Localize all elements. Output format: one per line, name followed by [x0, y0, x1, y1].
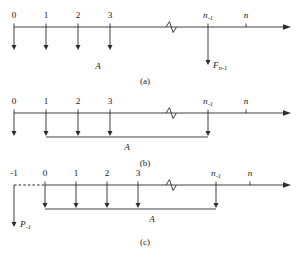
panel-c-flow-arrow-1 — [74, 185, 79, 208]
panel-a-label-n-minus-1: n-1 — [203, 10, 213, 21]
panel-a-flow-arrow-2 — [76, 27, 81, 50]
panel-c-amount-label: A — [148, 214, 155, 224]
panel-c-label-3: 3 — [136, 168, 141, 178]
panel-a-future-value-label: Fn-1 — [212, 60, 227, 71]
panel-c-label-0: 0 — [43, 168, 48, 178]
panel-c: -1 0 1 2 3 n-1 n — [10, 168, 291, 247]
panel-a-flow-arrow-n-minus-1 — [206, 27, 211, 65]
panel-b-flow-arrow-1 — [44, 113, 49, 136]
panel-c-label-2: 2 — [105, 168, 110, 178]
panel-a-label-2: 2 — [76, 10, 81, 20]
panel-c-flow-arrow-n-minus-1 — [214, 185, 219, 208]
panel-a-flow-arrow-1 — [44, 27, 49, 50]
cash-flow-diagram-svg: 0 1 2 3 n-1 n A Fn-1 (a) — [0, 0, 297, 258]
panel-a-label-1: 1 — [44, 10, 49, 20]
panel-b-amount-label: A — [123, 142, 130, 152]
panel-a-label-0: 0 — [12, 10, 17, 20]
panel-c-flow-arrow-0 — [43, 185, 48, 208]
panel-a-caption: (a) — [140, 76, 150, 86]
panel-b-axis-arrowhead — [283, 110, 291, 116]
panel-a-amount-label: A — [94, 61, 101, 71]
panel-a-label-n: n — [244, 10, 249, 20]
panel-c-flow-arrow-2 — [105, 185, 110, 208]
panel-c-label-minus-1: -1 — [10, 168, 18, 178]
panel-a-axis-arrowhead — [283, 24, 291, 30]
panel-c-axis-arrowhead — [283, 182, 291, 188]
panel-a-flow-arrow-3 — [108, 27, 113, 50]
panel-b-caption: (b) — [140, 158, 151, 168]
panel-b: 0 1 2 3 n-1 n A (b) — [12, 96, 292, 168]
panel-b-flow-arrow-2 — [76, 113, 81, 136]
panel-b-label-0: 0 — [12, 96, 17, 106]
panel-b-flow-arrow-n-minus-1 — [206, 113, 211, 136]
panel-a-flow-arrow-0 — [12, 27, 17, 50]
panel-c-flow-arrow-minus-1 — [12, 185, 17, 227]
panel-c-label-n-minus-1: n-1 — [211, 168, 221, 179]
cash-flow-figure: 0 1 2 3 n-1 n A Fn-1 (a) — [0, 0, 297, 258]
panel-b-flow-arrow-3 — [108, 113, 113, 136]
panel-c-flow-arrow-3 — [136, 185, 141, 208]
panel-a: 0 1 2 3 n-1 n A Fn-1 (a) — [12, 10, 292, 86]
panel-c-label-n: n — [248, 168, 253, 178]
panel-c-present-value-label: P-1 — [19, 219, 31, 230]
panel-b-label-2: 2 — [76, 96, 81, 106]
panel-b-label-3: 3 — [108, 96, 113, 106]
panel-c-label-1: 1 — [74, 168, 79, 178]
panel-b-label-n: n — [244, 96, 249, 106]
panel-c-caption: (c) — [140, 237, 150, 247]
panel-b-flow-arrow-0 — [12, 113, 17, 136]
panel-b-label-n-minus-1: n-1 — [203, 96, 213, 107]
panel-b-label-1: 1 — [44, 96, 49, 106]
panel-a-label-3: 3 — [108, 10, 113, 20]
